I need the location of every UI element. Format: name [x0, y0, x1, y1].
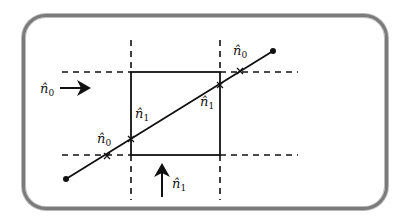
diagram-canvas: n̂0 n̂1 n̂0 n̂0 n̂1 n̂1 — [0, 0, 402, 219]
ray-start-dot — [63, 176, 69, 182]
label-incoming-bottom: n̂1 — [172, 176, 186, 193]
label-box-left-intersect: n̂1 — [135, 106, 149, 123]
ray-line — [66, 51, 273, 179]
ray-end-dot — [270, 48, 276, 54]
label-incoming-left: n̂0 — [40, 81, 54, 98]
label-cross-lower-left: n̂0 — [97, 131, 111, 148]
label-box-right-intersect: n̂1 — [200, 94, 214, 111]
label-cross-upper-right: n̂0 — [233, 43, 247, 60]
